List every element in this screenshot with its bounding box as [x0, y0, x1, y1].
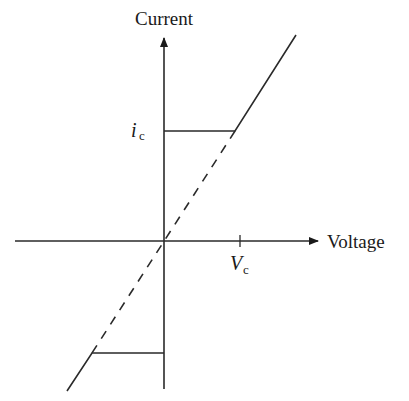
svg-text:i: i	[131, 119, 137, 141]
lower-characteristic-line	[67, 353, 164, 391]
x-axis-label: Voltage	[327, 231, 385, 252]
upper-characteristic-line	[164, 35, 296, 131]
current-limit-label: i c	[131, 119, 145, 143]
voltage-limit-label: V c	[230, 252, 249, 277]
svg-text:c: c	[243, 262, 249, 277]
iv-characteristic-diagram: Current Voltage i c V c	[0, 0, 409, 401]
y-axis-label: Current	[135, 8, 194, 29]
svg-text:c: c	[139, 128, 145, 143]
